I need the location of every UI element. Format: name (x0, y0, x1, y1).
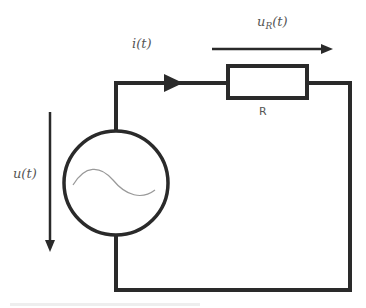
resistor-voltage-label-main: u (257, 14, 265, 29)
source-voltage-label: u(t) (13, 166, 37, 181)
source-voltage-arrow (45, 112, 55, 252)
resistor-label: R (259, 105, 267, 118)
wire-left-top (116, 83, 228, 135)
circuit-diagram: i(t) uR(t) R u(t) (0, 0, 366, 308)
resistor-voltage-label: uR(t) (257, 14, 288, 31)
ac-voltage-source (64, 131, 168, 235)
resistor-voltage-arrow (212, 44, 333, 54)
cropped-caption-fragment (10, 303, 200, 306)
arrowhead-down-icon (45, 240, 55, 252)
current-label: i(t) (132, 36, 152, 51)
resistor (228, 66, 307, 98)
current-arrow-icon (164, 74, 183, 92)
resistor-voltage-label-suffix: (t) (272, 14, 287, 29)
arrowhead-right-icon (321, 44, 333, 54)
